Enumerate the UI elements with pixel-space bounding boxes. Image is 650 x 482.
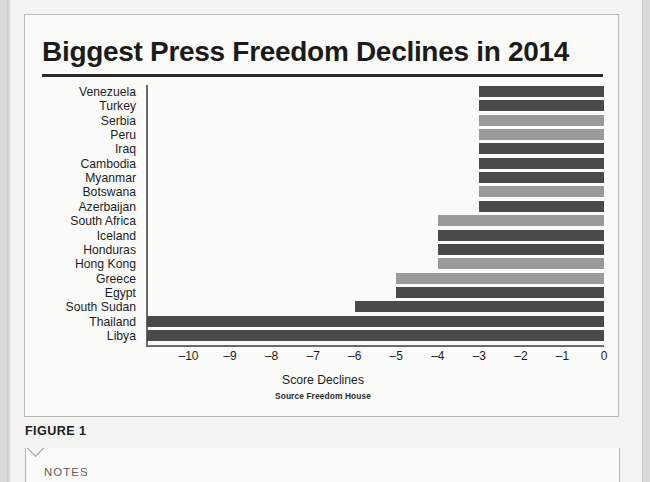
bar-libya	[147, 330, 604, 341]
x-tick-label: –5	[376, 349, 416, 363]
category-label: Iraq	[115, 142, 136, 157]
bar-thailand	[147, 316, 604, 327]
x-tick-label: –9	[210, 349, 250, 363]
bar-peru	[479, 129, 604, 140]
bar-azerbaijan	[479, 201, 604, 212]
bar-hong-kong	[438, 258, 604, 269]
bar-iraq	[479, 143, 604, 154]
category-label: Honduras	[83, 243, 136, 258]
category-label: Iceland	[97, 229, 136, 244]
category-label: South Sudan	[66, 300, 136, 315]
category-label: Turkey	[99, 99, 136, 114]
bar-botswana	[479, 186, 604, 197]
notes-label: NOTES	[44, 466, 89, 478]
x-tick-label: –6	[335, 349, 375, 363]
document-page: Freedom in the World press freedom Bigge…	[8, 0, 642, 482]
category-label: Venezuela	[79, 85, 136, 100]
notes-panel	[25, 448, 620, 482]
category-label: Hong Kong	[75, 257, 136, 272]
category-label: Botswana	[82, 185, 136, 200]
category-label: Greece	[96, 272, 136, 287]
bar-egypt	[396, 287, 604, 298]
x-axis-tick-labels: –10–9–8–7–6–5–4–3–2–10	[42, 349, 604, 365]
category-label: Peru	[110, 128, 136, 143]
bar-serbia	[479, 115, 604, 126]
figure-frame: Biggest Press Freedom Declines in 2014 V…	[24, 14, 619, 417]
bar-honduras	[438, 244, 604, 255]
x-tick-label: –2	[501, 349, 541, 363]
bar-south-sudan	[355, 301, 604, 312]
title-underline	[42, 74, 603, 77]
category-axis-labels: VenezuelaTurkeySerbiaPeruIraqCambodiaMya…	[42, 85, 141, 343]
category-label: Azerbaijan	[78, 200, 136, 215]
category-label: Egypt	[105, 286, 136, 301]
category-label: Libya	[107, 329, 136, 344]
figure-caption: FIGURE 1	[25, 424, 86, 438]
x-tick-label: 0	[584, 349, 624, 363]
category-label: Serbia	[101, 114, 136, 129]
x-tick-label: –8	[252, 349, 292, 363]
category-label: Thailand	[89, 315, 136, 330]
bar-iceland	[438, 230, 604, 241]
chart-source-note: Source Freedom House	[42, 391, 604, 401]
x-axis-line	[146, 345, 604, 347]
notes-notch-icon	[26, 448, 52, 461]
category-label: South Africa	[70, 214, 136, 229]
x-tick-label: –3	[459, 349, 499, 363]
bar-myanmar	[479, 172, 604, 183]
x-tick-label: –7	[293, 349, 333, 363]
bar-cambodia	[479, 158, 604, 169]
x-tick-label: –4	[418, 349, 458, 363]
chart-plot-area: VenezuelaTurkeySerbiaPeruIraqCambodiaMya…	[42, 85, 604, 357]
x-tick-label: –10	[169, 349, 209, 363]
x-tick-label: –1	[542, 349, 582, 363]
bar-turkey	[479, 100, 604, 111]
bar-south-africa	[438, 215, 604, 226]
x-axis-title: Score Declines	[42, 373, 604, 387]
chart-title: Biggest Press Freedom Declines in 2014	[42, 31, 602, 73]
category-label: Myanmar	[85, 171, 136, 186]
bar-venezuela	[479, 86, 604, 97]
bar-greece	[396, 273, 604, 284]
bar-series	[147, 85, 604, 343]
category-label: Cambodia	[80, 157, 136, 172]
